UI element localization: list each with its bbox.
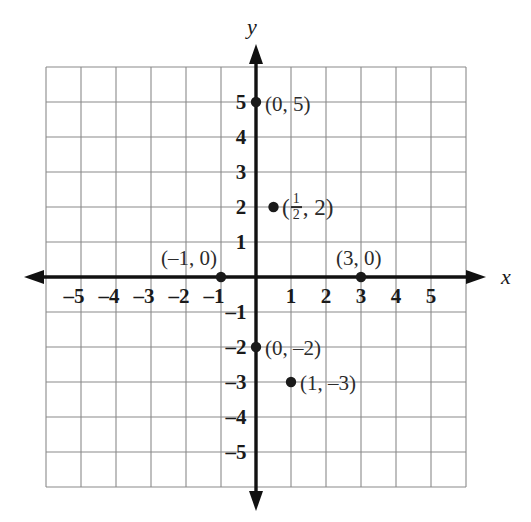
y-tick--3: –3	[226, 372, 247, 393]
y-tick-5: 5	[236, 92, 247, 113]
point-label-1-neg3: (1, –3)	[300, 373, 356, 394]
x-tick-2: 2	[321, 286, 332, 307]
y-tick-4: 4	[236, 127, 247, 148]
x-tick-1: 1	[286, 286, 297, 307]
fraction-tail: , 2)	[303, 196, 334, 219]
x-tick--4: –4	[99, 286, 120, 307]
y-axis-label: y	[247, 16, 257, 38]
label-layer: y x –5 –4 –3 –2 –1 1 2 3 4 5 5 4 3 2 1 –…	[0, 0, 531, 522]
x-tick--2: –2	[169, 286, 190, 307]
fraction-one-half: 1 2	[291, 192, 302, 222]
y-tick-1: 1	[236, 232, 247, 253]
point-label-0-5: (0, 5)	[265, 94, 311, 115]
x-tick--5: –5	[64, 286, 85, 307]
x-axis-label: x	[501, 266, 511, 288]
fraction-numerator: 1	[291, 192, 302, 206]
paren-open: (	[282, 196, 290, 219]
x-tick--1: –1	[204, 286, 225, 307]
y-tick--4: –4	[226, 407, 247, 428]
fraction-denominator: 2	[291, 208, 302, 222]
point-label-neg1-0: (–1, 0)	[161, 248, 217, 269]
x-tick-4: 4	[391, 286, 402, 307]
coordinate-plane-figure: y x –5 –4 –3 –2 –1 1 2 3 4 5 5 4 3 2 1 –…	[0, 0, 531, 522]
y-tick--5: –5	[226, 442, 247, 463]
point-label-3-0: (3, 0)	[336, 248, 382, 269]
point-label-half-2: ( 1 2 , 2)	[282, 193, 333, 223]
y-tick-3: 3	[236, 162, 247, 183]
y-tick--1: –1	[226, 302, 247, 323]
x-tick--3: –3	[134, 286, 155, 307]
x-tick-3: 3	[356, 286, 367, 307]
point-label-0-neg2: (0, –2)	[265, 338, 321, 359]
y-tick-2: 2	[236, 197, 247, 218]
x-tick-5: 5	[426, 286, 437, 307]
y-tick--2: –2	[226, 337, 247, 358]
